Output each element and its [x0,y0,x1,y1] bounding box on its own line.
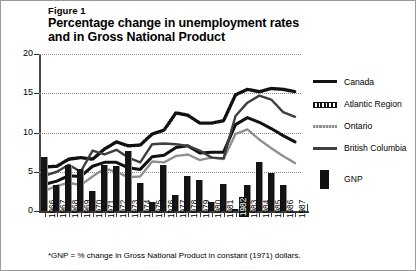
legend-item-atlantic-region[interactable]: Atlantic Region [313,93,416,115]
x-axis-tick [259,211,260,217]
x-axis-tick [45,211,46,217]
y-axis-label: 10 [7,128,33,137]
legend-item-canada[interactable]: Canada [313,71,416,93]
y-axis-tick [34,211,39,212]
x-axis-tick [224,211,225,217]
x-axis-year-label: 1983 [251,200,259,218]
x-axis-tick [128,211,129,217]
y-axis-label: 5 [7,167,33,176]
x-axis-tick [93,211,94,217]
footnote: *GNP = % change in Gross National Produc… [48,251,301,260]
gnp-bar-swatch [313,171,337,185]
x-axis-year-label: 1982 [239,197,249,217]
ontario-line-swatch [313,119,337,133]
x-axis-year-label: 1985 [275,200,283,218]
x-axis-year-label: 1987 [299,200,307,218]
x-axis-year-label: 1970 [96,200,104,218]
canada-line-swatch [313,75,337,89]
x-axis-year-label: 1968 [72,200,80,218]
x-axis-year-label: 1981 [227,200,235,218]
legend-item-british-columbia[interactable]: British Columbia [313,137,416,159]
legend-label: Ontario [344,122,372,131]
atlantic-line-swatch [313,97,337,111]
legend-label: British Columbia [344,144,407,153]
x-axis-year-label: 1975 [156,200,164,218]
legend-label: Canada [344,78,374,87]
british-columbia-line-swatch [313,141,337,155]
x-axis-tick [105,211,106,217]
y-axis-label: 15 [7,88,33,97]
x-axis-year-label: 1978 [191,200,199,218]
plot-area [39,54,301,211]
legend-label: Atlantic Region [344,100,402,109]
x-axis-year-label: 1967 [60,200,68,218]
x-axis-year-label: 1984 [263,200,271,218]
legend-item-gnp[interactable]: GNP [313,159,416,185]
legend-item-ontario[interactable]: Ontario [313,115,416,137]
x-axis-year-label: 1974 [144,200,152,218]
figure-container: Figure 1 Percentage change in unemployme… [0,0,416,271]
x-axis-year-label: 1986 [287,200,295,218]
x-axis-year-label: 1972 [120,200,128,218]
x-axis-year-label: 1979 [203,200,211,218]
series-line-atlantic-region [45,89,295,168]
y-axis-label: 20 [7,49,33,58]
x-axis-year-label: 1973 [132,200,140,218]
x-axis-year-label: 1966 [49,200,57,218]
x-axis-tick [212,211,213,217]
x-axis-year-label: 1980 [215,200,223,218]
x-axis-year-label: 1971 [108,200,116,218]
legend: CanadaAtlantic RegionOntarioBritish Colu… [313,71,416,185]
x-axis-year-label: 1969 [84,200,92,218]
x-axis-tick [69,211,70,217]
x-axis-year-label: 1976 [168,200,176,218]
x-axis-year-label: 1977 [180,200,188,218]
x-axis-tick [81,211,82,217]
x-axis-tick [116,211,117,217]
x-axis-tick [236,211,237,217]
y-axis-label: 0 [7,206,33,215]
x-axis-tick [200,211,201,217]
legend-label: GNP [344,175,363,184]
